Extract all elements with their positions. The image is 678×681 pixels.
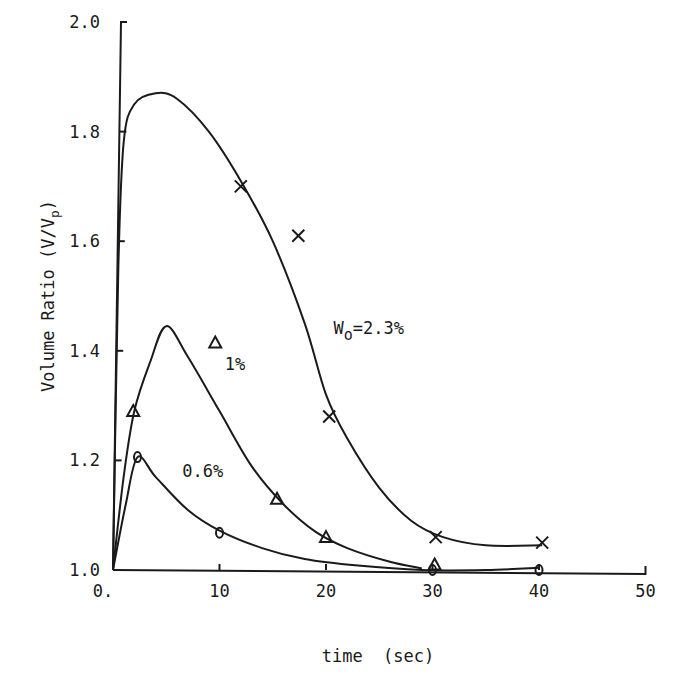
- y-tick-label: 1.4: [69, 341, 100, 361]
- x-tick-label: 0.: [93, 581, 113, 601]
- triangle-marker-icon: [209, 337, 221, 348]
- series-annotations: Wo=2.3%1%0.6%: [182, 318, 404, 480]
- y-tick-label: 1.8: [69, 122, 100, 142]
- x-marker-icon: [323, 411, 335, 423]
- x-tick-label: 10: [209, 581, 229, 601]
- label-0-6-percent: 0.6%: [182, 461, 223, 481]
- tick-labels: 0.10203040501.01.21.41.61.82.0: [69, 12, 655, 601]
- triangle-marker-icon: [429, 559, 441, 570]
- x-tick-label: 20: [316, 581, 336, 601]
- curve-circle: [113, 456, 539, 570]
- y-tick-label: 1.6: [69, 231, 100, 251]
- x-tick-label: 40: [529, 581, 549, 601]
- label-w0-2-3-percent: Wo=2.3%: [333, 318, 403, 344]
- x-tick-label: 30: [422, 581, 442, 601]
- curve-triangle: [113, 326, 422, 570]
- volume-ratio-chart: 0.10203040501.01.21.41.61.82.0 Wo=2.3%1%…: [0, 0, 678, 681]
- tick-marks: [115, 132, 539, 570]
- y-axis-title: Volume Ratio (V/Vp): [38, 200, 62, 392]
- y-axis-title-close: ): [38, 200, 58, 210]
- y-tick-label: 2.0: [69, 12, 100, 32]
- y-tick-label: 1.2: [69, 450, 100, 470]
- curve-x: [113, 93, 542, 570]
- x-marker-icon: [430, 531, 442, 543]
- y-axis-title-sub: p: [47, 210, 62, 218]
- series-markers: [127, 180, 548, 575]
- x-marker-icon: [292, 230, 304, 242]
- x-axis-title: time (sec): [322, 646, 435, 666]
- x-marker-icon: [536, 537, 548, 549]
- y-axis-title-main: Volume Ratio (V/V: [38, 218, 58, 392]
- label-1-percent: 1%: [225, 354, 245, 374]
- x-tick-label: 50: [635, 581, 655, 601]
- svg-text:Volume Ratio (V/Vp): Volume Ratio (V/Vp): [38, 200, 62, 392]
- axes: [113, 22, 646, 574]
- y-tick-label: 1.0: [69, 560, 100, 580]
- series-curves: [113, 93, 542, 571]
